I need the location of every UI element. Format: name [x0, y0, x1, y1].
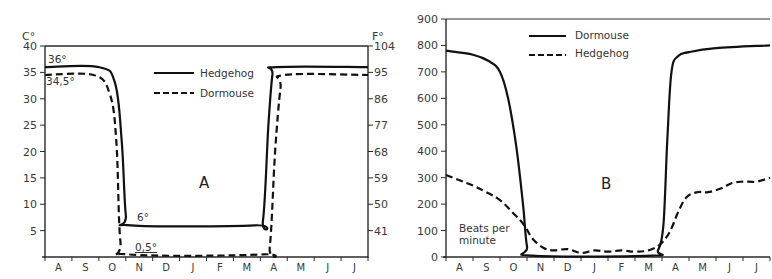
month-label: J: [191, 262, 195, 273]
month-label: D: [564, 262, 572, 273]
chart-b-month-ticks: ASONDJFMAMJJ: [446, 257, 770, 273]
chart-a-annotation-6: 6°: [137, 211, 149, 223]
month-label: O: [510, 262, 518, 273]
y-tick-label: 300: [417, 172, 438, 185]
chart-a-annotation-36: 36°: [48, 53, 67, 65]
chart-a-legend-dormouse: Dormouse: [200, 87, 254, 99]
y-tick-label: 400: [417, 145, 438, 158]
month-label: A: [270, 262, 277, 273]
y-tick-label: 500: [417, 119, 438, 132]
month-label: M: [243, 262, 252, 273]
y-tick-label: 900: [417, 13, 438, 26]
month-label: A: [55, 262, 62, 273]
y-right-tick-label: 95: [374, 66, 388, 79]
chart-a-left-ticks: 510152025303540: [23, 40, 45, 238]
figure-canvas: C° F° 510152025303540 41505968778695104 …: [0, 0, 772, 279]
month-label: S: [82, 262, 88, 273]
chart-b-legend-hedgehog: Hedgehog: [575, 47, 629, 59]
chart-b-ylabel-line1: Beats per: [459, 222, 510, 234]
chart-b-ylabel-line2: minute: [459, 234, 496, 246]
month-label: M: [296, 262, 305, 273]
month-label: S: [483, 262, 489, 273]
y-tick-label: 30: [23, 93, 37, 106]
y-tick-label: 5: [30, 225, 37, 238]
month-label: N: [135, 262, 142, 273]
month-label: A: [456, 262, 463, 273]
chart-b: 0100200300400500600700800900 ASONDJFMAMJ…: [417, 13, 770, 273]
chart-b-legend-dormouse: Dormouse: [575, 29, 629, 41]
y-right-tick-label: 68: [374, 146, 388, 159]
y-tick-label: 800: [417, 39, 438, 52]
y-tick-label: 0: [431, 251, 438, 264]
month-label: J: [352, 262, 356, 273]
y-right-tick-label: 77: [374, 119, 388, 132]
y-tick-label: 35: [23, 66, 37, 79]
y-right-tick-label: 104: [374, 40, 395, 53]
month-label: M: [644, 262, 653, 273]
month-label: D: [162, 262, 170, 273]
chart-a: C° F° 510152025303540 41505968778695104 …: [22, 30, 395, 273]
month-label: J: [727, 262, 731, 273]
y-tick-label: 10: [23, 198, 37, 211]
y-right-tick-label: 86: [374, 93, 388, 106]
chart-a-annotation-0-5: 0,5°: [135, 241, 157, 253]
month-label: F: [619, 262, 625, 273]
month-label: A: [672, 262, 679, 273]
y-tick-label: 700: [417, 66, 438, 79]
y-tick-label: 15: [23, 172, 37, 185]
chart-b-panel-label: B: [601, 175, 611, 193]
y-tick-label: 40: [23, 40, 37, 53]
y-right-tick-label: 41: [374, 225, 388, 238]
chart-a-panel-label: A: [199, 174, 210, 192]
y-tick-label: 200: [417, 198, 438, 211]
y-tick-label: 600: [417, 92, 438, 105]
y-tick-label: 20: [23, 146, 37, 159]
chart-a-dormouse-line: [45, 74, 368, 257]
month-label: F: [217, 262, 223, 273]
y-tick-label: 25: [23, 119, 37, 132]
chart-a-right-ticks: 41505968778695104: [368, 40, 395, 238]
month-label: N: [537, 262, 544, 273]
month-label: M: [698, 262, 707, 273]
y-tick-label: 100: [417, 225, 438, 238]
month-label: J: [754, 262, 758, 273]
month-label: O: [108, 262, 116, 273]
month-label: J: [592, 262, 596, 273]
y-right-tick-label: 59: [374, 172, 388, 185]
chart-a-annotation-34-5: 34,5°: [46, 75, 75, 87]
chart-a-legend-hedgehog: Hedgehog: [200, 67, 254, 79]
chart-b-y-ticks: 0100200300400500600700800900: [417, 13, 446, 264]
month-label: J: [325, 262, 329, 273]
chart-a-month-ticks: ASONDJFMAMJJ: [45, 257, 368, 273]
y-right-tick-label: 50: [374, 198, 388, 211]
